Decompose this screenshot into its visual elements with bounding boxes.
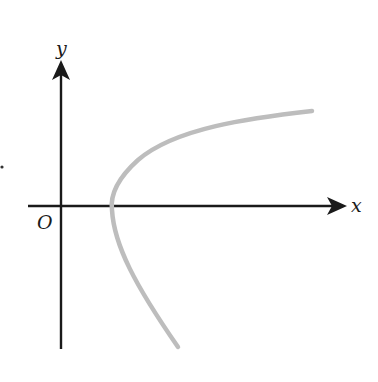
origin-label: O [37, 211, 53, 233]
y-axis-label: y [55, 37, 67, 59]
coordinate-plane-figure: y x O [0, 0, 378, 382]
x-axis-label: x [351, 194, 362, 216]
parabola-curve [112, 111, 312, 347]
stray-dot [0, 165, 3, 168]
